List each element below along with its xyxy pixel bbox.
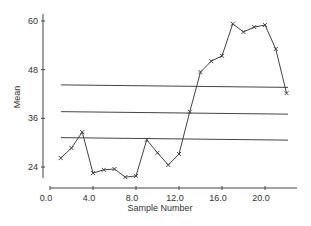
x-tick-label: 4.0: [83, 193, 96, 203]
x-tick-label: 8.0: [126, 193, 139, 203]
control-limit-line: [61, 138, 288, 141]
x-marker-icon: [70, 146, 74, 150]
x-marker-icon: [59, 156, 63, 160]
x-axis-label: Sample Number: [127, 203, 192, 213]
x-marker-icon: [242, 30, 246, 34]
x-tick-label: 20.0: [252, 193, 270, 203]
series-line: [61, 24, 287, 177]
control-limit-line: [61, 85, 288, 88]
y-axis-label: Mean: [12, 86, 22, 109]
x-marker-icon: [209, 59, 213, 63]
x-marker-icon: [166, 163, 170, 167]
y-tick-label: 60: [28, 16, 38, 26]
y-tick-label: 24: [28, 162, 38, 172]
axes: 243648600.04.08.012.016.020.0: [28, 14, 297, 203]
control-chart: 243648600.04.08.012.016.020.0 Sample Num…: [0, 0, 311, 226]
y-tick-label: 48: [28, 65, 38, 75]
control-limit-line: [61, 112, 288, 115]
x-marker-icon: [156, 151, 160, 155]
x-tick-label: 12.0: [166, 193, 184, 203]
data-series: [59, 22, 289, 179]
x-tick-label: 0.0: [40, 193, 53, 203]
control-limit-lines: [61, 85, 288, 140]
y-tick-label: 36: [28, 113, 38, 123]
x-tick-label: 16.0: [209, 193, 227, 203]
